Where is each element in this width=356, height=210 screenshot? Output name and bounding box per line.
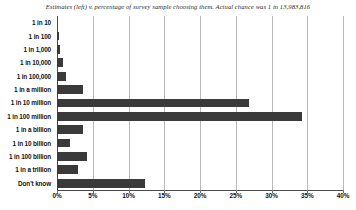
y-axis-label: 1 in 100 billion: [0, 150, 54, 163]
bar-row: [57, 110, 343, 123]
bar: [57, 179, 145, 188]
x-axis-tick: [93, 190, 94, 193]
bar: [57, 58, 63, 67]
bar: [57, 152, 87, 161]
y-axis-label: 1 in a trillion: [0, 163, 54, 176]
x-axis-label: 0%: [53, 192, 62, 199]
y-axis-label: 1 in 10 million: [0, 96, 54, 109]
x-axis-label: 25%: [230, 192, 242, 199]
x-axis-label: 30%: [265, 192, 277, 199]
bar-row: [57, 177, 343, 190]
bar-chart: Estimates (left) v. percentage of survey…: [0, 0, 356, 210]
y-axis-category-labels: 1 in 101 in 1001 in 1,0001 in 10,0001 in…: [0, 16, 54, 190]
bar-row: [57, 56, 343, 69]
bar: [57, 139, 70, 148]
bar: [57, 99, 249, 108]
bar: [57, 85, 83, 94]
bar-row: [57, 70, 343, 83]
x-axis-tick: [129, 190, 130, 193]
bar-row: [57, 29, 343, 42]
bar: [57, 165, 78, 174]
bar-row: [57, 83, 343, 96]
bar: [57, 112, 302, 121]
bar-series: [57, 16, 343, 190]
x-axis-label: 15%: [158, 192, 170, 199]
y-axis-label: 1 in 100 million: [0, 110, 54, 123]
x-axis-label: 20%: [194, 192, 206, 199]
bar-row: [57, 96, 343, 109]
bar: [57, 32, 59, 41]
y-axis-label: 1 in a billion: [0, 123, 54, 136]
y-axis-label: 1 in 10: [0, 16, 54, 29]
bar-row: [57, 16, 343, 29]
y-axis-label: 1 in 100: [0, 29, 54, 42]
y-axis-label: 1 in 100,000: [0, 70, 54, 83]
x-axis-tick-labels: 0%5%10%15%20%25%30%35%40%: [0, 192, 356, 206]
bar: [57, 72, 66, 81]
bar-row: [57, 123, 343, 136]
gridline-40: [343, 16, 344, 190]
x-axis-tick: [272, 190, 273, 193]
bar-row: [57, 136, 343, 149]
x-axis-tick: [236, 190, 237, 193]
x-axis-tick: [200, 190, 201, 193]
x-axis-tick: [164, 190, 165, 193]
x-axis-label: 10%: [122, 192, 134, 199]
y-axis-label: 1 in 1,000: [0, 43, 54, 56]
x-axis-tick: [57, 190, 58, 193]
bar: [57, 125, 83, 134]
plot-area: [57, 16, 343, 190]
y-axis-label: 1 in a million: [0, 83, 54, 96]
x-axis-label: 35%: [301, 192, 313, 199]
bar-row: [57, 150, 343, 163]
x-axis-tick: [307, 190, 308, 193]
chart-title: Estimates (left) v. percentage of survey…: [0, 2, 356, 11]
x-axis-label: 40%: [337, 192, 349, 199]
y-axis-label: 1 in 10 billion: [0, 136, 54, 149]
y-axis-label: Don't know: [0, 177, 54, 190]
x-axis-label: 5%: [88, 192, 97, 199]
bar-row: [57, 43, 343, 56]
x-axis-tick: [343, 190, 344, 193]
bar: [57, 45, 60, 54]
bar-row: [57, 163, 343, 176]
y-axis-label: 1 in 10,000: [0, 56, 54, 69]
